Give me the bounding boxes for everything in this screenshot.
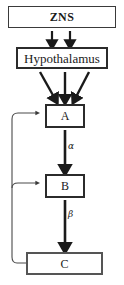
edge-zns-to-hypothalamus <box>52 31 70 42</box>
feedback-rail-c <box>12 113 38 263</box>
node-a-label: A <box>61 110 70 122</box>
node-b: B <box>45 174 85 198</box>
node-hypothalamus-label: Hypothalamus <box>24 52 100 65</box>
flowchart-diagram: ZNS Hypothalamus A B C α β <box>0 0 124 285</box>
node-zns: ZNS <box>8 6 116 28</box>
arrow-hypothalamus-a-left <box>40 72 54 97</box>
feedback-line-c-to-a <box>12 113 38 263</box>
arrow-hypothalamus-a-right <box>76 72 89 97</box>
edge-label-beta: β <box>68 209 73 219</box>
feedback-line-c-to-b <box>12 183 38 188</box>
node-a: A <box>45 104 85 128</box>
flowchart-connectors <box>0 0 124 285</box>
node-c-label: C <box>60 258 68 270</box>
edge-label-alpha: α <box>68 141 74 151</box>
node-zns-label: ZNS <box>50 11 75 23</box>
node-c: C <box>26 252 103 275</box>
node-b-label: B <box>61 180 69 192</box>
node-hypothalamus: Hypothalamus <box>16 47 108 69</box>
edge-hypothalamus-to-a <box>40 72 89 97</box>
